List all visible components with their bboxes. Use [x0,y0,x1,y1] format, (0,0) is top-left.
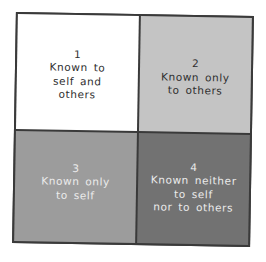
quadrant-3-number: 3 [72,162,80,176]
quadrant-4-line-3: nor to others [153,200,233,215]
quadrant-4-line-1: Known neither [151,173,237,188]
quadrant-1-number: 1 [74,48,82,62]
quadrant-2-text: 2 Known only to others [161,57,230,99]
quadrant-4-number: 4 [190,160,198,174]
quadrant-3-hidden: 3 Known only to self [14,131,137,243]
quadrant-1-line-1: Known to [49,61,105,75]
quadrant-3-line-1: Known only [41,175,110,190]
quadrant-3-line-2: to self [56,188,95,202]
quadrant-2-blind: 2 Known only to others [139,16,252,133]
quadrant-1-line-2: self and [53,74,102,88]
quadrant-4-text: 4 Known neither to self nor to others [150,160,237,215]
johari-window-grid: 1 Known to self and others 2 Known only … [12,12,254,247]
quadrant-1-text: 1 Known to self and others [49,47,106,102]
quadrant-4-unknown: 4 Known neither to self nor to others [137,133,250,245]
quadrant-4-line-2: to self [174,187,213,201]
quadrant-1-line-3: others [58,88,95,102]
quadrant-2-line-1: Known only [161,70,230,85]
quadrant-1-open: 1 Known to self and others [16,14,139,131]
quadrant-3-text: 3 Known only to self [41,161,110,203]
quadrant-2-number: 2 [192,57,200,71]
quadrant-2-line-2: to others [168,84,223,98]
